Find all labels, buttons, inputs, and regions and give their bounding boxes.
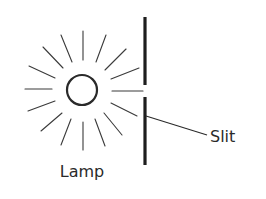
ray-up-right-2 <box>105 49 126 70</box>
ray-down-right-1 <box>111 103 137 116</box>
ray-down-right-2 <box>104 113 122 135</box>
lamp-slit-diagram: Slit Lamp <box>0 0 266 199</box>
ray-down-right-3 <box>95 119 105 146</box>
lamp-rays <box>25 31 143 150</box>
lamp-label: Lamp <box>60 162 104 181</box>
slit-pointer-line <box>146 116 207 135</box>
ray-up-left-2 <box>43 47 63 68</box>
ray-up-left-1 <box>29 66 55 78</box>
ray-down-left-2 <box>41 113 62 131</box>
ray-up-right-3 <box>111 68 139 79</box>
lamp-bulb-icon <box>67 75 97 105</box>
ray-down-left-3 <box>28 101 55 111</box>
ray-down-left-1 <box>61 119 71 145</box>
ray-up-left-3 <box>61 35 72 62</box>
slit-label: Slit <box>210 127 235 146</box>
ray-up-right-1 <box>96 35 106 62</box>
